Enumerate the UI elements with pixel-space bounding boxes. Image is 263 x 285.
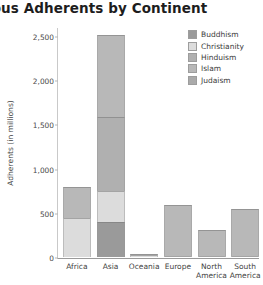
chart-title: Religious Adherents by Continent: [0, 0, 108, 16]
legend-item-label: Islam: [201, 64, 221, 73]
legend-item-label: Buddhism: [201, 30, 238, 39]
bar-segment[interactable]: [231, 256, 259, 257]
bar-segment[interactable]: [97, 222, 125, 257]
bar-segment[interactable]: [231, 209, 259, 256]
y-axis-tick-label: 500: [40, 209, 54, 218]
bar-segment[interactable]: [63, 218, 91, 257]
y-axis-tick-label: 1,000: [33, 165, 54, 174]
legend-swatch-icon: [188, 64, 197, 73]
legend-item-label: Christianity: [201, 42, 244, 51]
stacked-bar[interactable]: [198, 230, 226, 257]
legend-item-label: Judaism: [201, 76, 231, 85]
y-axis-tick-mark: [55, 81, 58, 82]
chart-legend: BuddhismChristianityHinduismIslamJudaism: [188, 29, 244, 86]
legend-swatch-icon: [188, 53, 197, 62]
bar-segment[interactable]: [130, 255, 158, 257]
legend-item-label: Hinduism: [201, 53, 236, 62]
legend-item[interactable]: Buddhism: [188, 29, 244, 40]
stacked-bar[interactable]: [164, 205, 192, 257]
x-axis-tick-label: North America: [196, 262, 227, 280]
stacked-bar[interactable]: [231, 209, 259, 257]
stacked-bar[interactable]: [63, 187, 91, 257]
bar-segment[interactable]: [63, 187, 91, 218]
x-axis-tick-label: Oceania: [129, 262, 160, 271]
legend-item[interactable]: Judaism: [188, 75, 244, 86]
bar-segment[interactable]: [97, 35, 125, 117]
x-axis-tick-label: Asia: [103, 262, 119, 271]
legend-swatch-icon: [188, 30, 197, 39]
bar-segment[interactable]: [164, 256, 192, 257]
y-axis-tick-label: 2,000: [33, 77, 54, 86]
bar-segment[interactable]: [97, 117, 125, 190]
y-axis-tick-mark: [55, 258, 58, 259]
x-axis-tick-label: South America: [230, 262, 261, 280]
y-axis-tick-mark: [55, 169, 58, 170]
legend-swatch-icon: [188, 42, 197, 51]
legend-item[interactable]: Hinduism: [188, 52, 244, 63]
y-axis-tick-mark: [55, 36, 58, 37]
y-axis-label: Adherents (in millions): [6, 100, 15, 186]
bar-segment[interactable]: [198, 230, 226, 256]
x-axis-tick-label: Europe: [165, 262, 191, 271]
chart-container: Religious Adherents by Continent Adheren…: [0, 0, 263, 285]
y-axis-tick-label: 2,500: [33, 32, 54, 41]
y-axis-tick-mark: [55, 213, 58, 214]
y-axis-tick-mark: [55, 125, 58, 126]
bar-segment[interactable]: [198, 256, 226, 257]
stacked-bar[interactable]: [130, 254, 158, 257]
x-axis-tick-label: Africa: [66, 262, 87, 271]
stacked-bar[interactable]: [97, 35, 125, 257]
y-axis-tick-label: 1,500: [33, 121, 54, 130]
legend-item[interactable]: Christianity: [188, 40, 244, 51]
legend-item[interactable]: Islam: [188, 63, 244, 74]
y-axis-tick-label: 0: [49, 254, 54, 263]
legend-swatch-icon: [188, 76, 197, 85]
bar-segment[interactable]: [97, 191, 125, 222]
bar-segment[interactable]: [164, 205, 192, 256]
